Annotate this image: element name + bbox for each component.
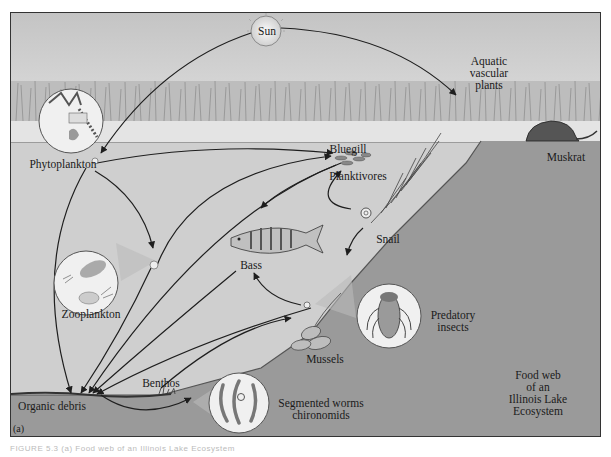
- segmented-worms-label-line1: Segmented worms: [271, 397, 371, 409]
- segmented-worms-label-line2: chironomids: [271, 409, 371, 421]
- muskrat-label: Muskrat: [541, 151, 591, 163]
- planktivores-label: Planktivores: [323, 170, 393, 182]
- mussels-label: Mussels: [303, 353, 347, 365]
- food-web-figure: Sun Aquatic vascular plants Phytoplankto…: [10, 12, 601, 437]
- figure-title: Food web of an Illinois Lake Ecosystem: [498, 369, 578, 417]
- aquatic-plants-label-line3: plants: [459, 79, 519, 91]
- predatory-insects-label-line1: Predatory: [423, 309, 483, 321]
- figure-title-line2: of an: [498, 381, 578, 393]
- zooplankton-label: Zooplankton: [56, 308, 126, 320]
- figure-title-line3: Illinois Lake: [498, 393, 578, 405]
- aquatic-plants-label-line2: vascular: [459, 67, 519, 79]
- snail-label: Snail: [371, 233, 405, 245]
- figure-title-line4: Ecosystem: [498, 405, 578, 417]
- predatory-insects-label: Predatory insects: [423, 309, 483, 333]
- benthos-label: Benthos: [139, 377, 183, 389]
- figure-title-line1: Food web: [498, 369, 578, 381]
- aquatic-plants-label: Aquatic vascular plants: [459, 55, 519, 91]
- predatory-insects-label-line2: insects: [423, 321, 483, 333]
- bass-label: Bass: [236, 259, 266, 271]
- figure-caption: FIGURE 5.3 (a) Food web of an Illinois L…: [10, 444, 235, 453]
- organic-debris-label: Organic debris: [11, 400, 93, 412]
- predatory-insects-inset: [357, 284, 421, 348]
- phytoplankton-label: Phytoplankton: [23, 158, 103, 170]
- segmented-worms-label: Segmented worms chironomids: [271, 397, 371, 421]
- panel-label: (a): [13, 423, 24, 435]
- aquatic-plants-label-line1: Aquatic: [459, 55, 519, 67]
- segmented-worms-inset: [209, 373, 269, 433]
- bluegill-label: Bluegill: [323, 143, 373, 155]
- sun-label: Sun: [256, 25, 278, 37]
